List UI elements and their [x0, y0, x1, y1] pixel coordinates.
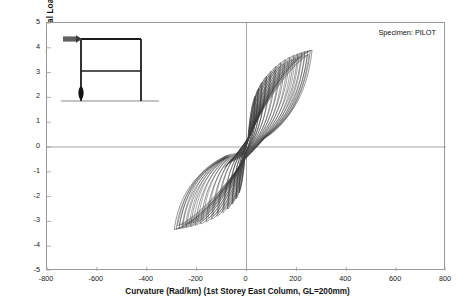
x-tick-label: 400: [339, 275, 351, 282]
y-tick-label: 5: [36, 18, 40, 25]
hysteresis-loop-cycle-12: [186, 53, 301, 228]
hysteresis-loop-cycle-13: [182, 52, 304, 229]
plot-area: Specimen: PILOT: [46, 22, 445, 270]
plastic-hinge-marker: [78, 87, 83, 100]
hysteresis-loop-cycle-11: [191, 54, 298, 227]
hysteresis-loop-repeat-10: [198, 59, 292, 221]
hysteresis-loop-cycle-9: [201, 57, 290, 224]
moment-curvature-figure: Moment (Including Axial Load Effect) (kN…: [0, 0, 475, 308]
x-tick-label: 600: [389, 275, 401, 282]
hysteresis-loop-cycle-15: [176, 50, 310, 229]
specimen-annotation: Specimen: PILOT: [378, 28, 436, 37]
x-axis-title: Curvature (Rad/km) (1st Storey East Colu…: [0, 287, 475, 296]
y-tick-label: 3: [36, 68, 40, 75]
hysteresis-loop-cycle-14: [179, 51, 308, 229]
x-tick-label: -800: [39, 275, 54, 282]
y-tick-label: -4: [34, 241, 41, 248]
frame-inset-diagram: [55, 29, 179, 113]
lateral-load-arrow: [63, 35, 82, 43]
y-tick-label: 1: [36, 117, 40, 124]
x-tick-label: -600: [89, 275, 104, 282]
x-tick-label: 200: [289, 275, 301, 282]
x-tick-label: -400: [138, 275, 153, 282]
y-tick-label: -2: [34, 192, 41, 199]
y-tick-label: 4: [36, 43, 40, 50]
x-tick-label: 0: [243, 275, 247, 282]
y-tick-label: 0: [36, 142, 40, 149]
y-tick-label: -3: [34, 216, 41, 223]
hysteresis-loop-repeat-15: [179, 55, 307, 226]
x-tick-label: -200: [188, 275, 203, 282]
hysteresis-loops: [174, 50, 312, 230]
x-tick-label: 800: [439, 275, 451, 282]
y-tick-label: -5: [34, 266, 41, 273]
y-axis-tick-labels: 543210-1-2-3-4-5: [18, 0, 40, 308]
hysteresis-loop-cycle-16: [174, 50, 312, 230]
y-tick-label: -1: [34, 167, 41, 174]
y-tick-label: 2: [36, 92, 40, 99]
hysteresis-loop-repeat-16: [177, 54, 309, 225]
